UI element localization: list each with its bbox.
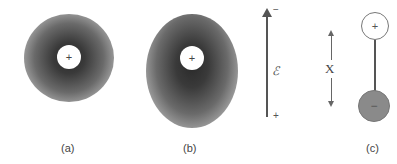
nucleus-b: + (180, 46, 204, 70)
dimension-arrow-down-icon (328, 101, 334, 107)
negative-charge: − (358, 90, 390, 122)
field-arrow-line (266, 12, 268, 117)
field-bottom-sign: + (273, 110, 279, 121)
dipole-bond-line (374, 40, 376, 92)
nucleus-sign-a: + (66, 52, 72, 63)
field-symbol: ℰ (272, 64, 279, 79)
positive-sign: + (372, 20, 378, 32)
field-top-sign: − (273, 4, 279, 15)
negative-sign: − (370, 99, 377, 113)
nucleus-a: + (57, 45, 81, 69)
separation-label: X (325, 60, 334, 78)
nucleus-sign-b: + (189, 53, 195, 64)
panel-label-c: (c) (366, 142, 379, 154)
electron-cloud-b (146, 14, 238, 128)
panel-label-b: (b) (183, 142, 196, 154)
panel-label-a: (a) (61, 142, 74, 154)
positive-charge: + (361, 12, 389, 40)
